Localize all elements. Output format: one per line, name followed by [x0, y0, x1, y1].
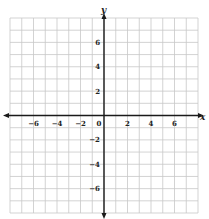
- x-axis-arrow-left-icon: [3, 113, 9, 118]
- y-tick-label: −4: [89, 160, 100, 169]
- y-tick-label: −6: [89, 184, 100, 193]
- y-tick-label: 4: [95, 62, 100, 71]
- x-tick-label: −2: [75, 119, 86, 128]
- y-tick-label: −2: [89, 135, 100, 144]
- y-tick-label: 6: [95, 38, 100, 47]
- y-axis-label: y: [100, 5, 107, 15]
- coordinate-plane: −6−4−20246642−2−4−6 x y: [0, 0, 209, 219]
- x-tick-label: −6: [28, 119, 39, 128]
- x-tick-label: 4: [149, 119, 154, 128]
- x-tick-label: 6: [172, 119, 177, 128]
- y-axis-arrow-down-icon: [102, 213, 107, 219]
- x-tick-label: 0: [97, 119, 102, 128]
- x-tick-label: −4: [52, 119, 63, 128]
- y-tick-label: 2: [95, 87, 100, 96]
- x-tick-label: 2: [125, 119, 130, 128]
- x-axis-label: x: [199, 112, 206, 122]
